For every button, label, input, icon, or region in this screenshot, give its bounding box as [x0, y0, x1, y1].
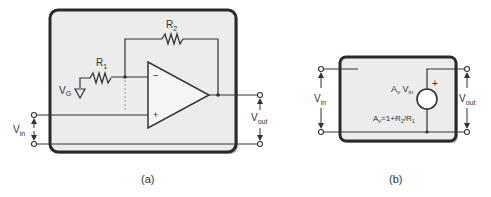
caption-a: (a) — [141, 173, 154, 185]
diagram-a: − + R2 R1 VG Vin — [13, 10, 267, 185]
source-plus-sign: + — [432, 78, 438, 89]
vout-terminal-bottom — [258, 142, 263, 147]
vin-terminal-bottom — [32, 142, 37, 147]
vin-label-b: Vin — [314, 93, 326, 106]
vout-label-b: Vout — [459, 93, 475, 106]
vout-label: Vout — [251, 112, 267, 125]
junction-dot — [123, 75, 127, 79]
junction-dot-b — [425, 130, 428, 133]
vin-label: Vin — [13, 124, 25, 137]
vout-terminal-top — [258, 93, 263, 98]
vout-terminal-top-b — [465, 67, 470, 72]
amplifier-box — [50, 10, 236, 152]
vin-terminal-top — [32, 113, 37, 118]
dependent-voltage-source-icon — [417, 89, 437, 109]
diagram-b: + Av Vin Av=1+R2/R1 Vin Vout (b) — [314, 57, 475, 185]
vout-terminal-bottom-b — [465, 130, 470, 135]
inverting-input-sign: − — [153, 70, 159, 81]
circuit-diagram: − + R2 R1 VG Vin — [0, 0, 491, 197]
caption-b: (b) — [389, 173, 402, 185]
vin-terminal-bottom-b — [319, 130, 324, 135]
output-junction-dot — [216, 93, 220, 97]
noninverting-input-sign: + — [153, 110, 158, 120]
vin-terminal-top-b — [319, 67, 324, 72]
